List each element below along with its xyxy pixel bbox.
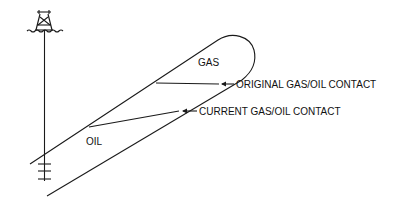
oil-label: OIL <box>86 136 103 147</box>
gas-label: GAS <box>198 57 219 68</box>
original-contact-label: ORIGINAL GAS/OIL CONTACT <box>236 79 376 90</box>
reservoir-diagram: GAS OIL ORIGINAL GAS/OIL CONTACT CURRENT… <box>0 0 403 206</box>
reservoir-bottom-boundary <box>47 80 242 196</box>
current-contact-label: CURRENT GAS/OIL CONTACT <box>199 106 341 117</box>
current-gas-oil-contact <box>89 111 179 127</box>
rig-icon <box>35 10 53 30</box>
original-gas-oil-contact <box>156 83 219 84</box>
current-contact-arrow-icon <box>182 109 197 114</box>
reservoir-top-boundary <box>30 35 255 164</box>
